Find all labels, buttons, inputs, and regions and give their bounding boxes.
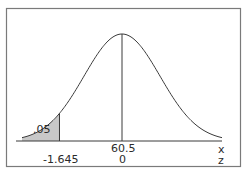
tail-area-label: .05 [33, 124, 51, 135]
mean-z-label: 0 [119, 154, 126, 165]
critical-z-label: -1.645 [43, 154, 78, 165]
z-axis-label: z [218, 155, 224, 166]
